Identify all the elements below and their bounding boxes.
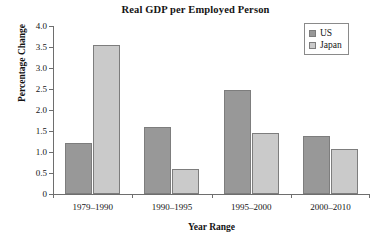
bar-group — [53, 26, 132, 194]
x-tick-label: 1979–1990 — [53, 202, 132, 212]
bar-group — [132, 26, 211, 194]
legend-item-japan[interactable]: Japan — [309, 39, 342, 51]
x-tick-mark — [291, 194, 292, 198]
x-tick-label: 1995–2000 — [212, 202, 291, 212]
bar-japan-1[interactable] — [172, 169, 199, 194]
legend-swatch-icon — [309, 42, 316, 49]
x-tick-label: 2000–2010 — [291, 202, 370, 212]
y-tick-label: 4.0 — [36, 21, 47, 31]
bar-group — [212, 26, 291, 194]
bar-japan-2[interactable] — [252, 133, 279, 194]
y-axis-title: Percentage Change — [17, 0, 27, 133]
y-tick-label: 0 — [43, 189, 48, 199]
legend-swatch-icon — [309, 30, 316, 37]
bar-japan-3[interactable] — [331, 149, 358, 194]
bar-us-3[interactable] — [303, 136, 330, 194]
y-tick-label: 1.0 — [36, 147, 47, 157]
chart-figure: Real GDP per Employed Person Percentage … — [0, 0, 391, 248]
legend-label: US — [320, 27, 332, 39]
y-tick-label: 3.0 — [36, 63, 47, 73]
chart-title: Real GDP per Employed Person — [0, 4, 391, 15]
y-tick-label: 2.0 — [36, 105, 47, 115]
legend-label: Japan — [320, 39, 342, 51]
x-tick-mark — [53, 194, 54, 198]
bar-us-1[interactable] — [144, 127, 171, 194]
bar-us-0[interactable] — [65, 143, 92, 194]
y-tick-label: 3.5 — [36, 42, 47, 52]
x-axis-title: Year Range — [53, 222, 370, 232]
x-tick-mark — [212, 194, 213, 198]
bar-us-2[interactable] — [224, 90, 251, 194]
x-tick-mark — [369, 194, 370, 198]
legend-item-us[interactable]: US — [309, 27, 342, 39]
bar-japan-0[interactable] — [93, 45, 120, 194]
y-tick-label: 0.5 — [36, 168, 47, 178]
x-tick-mark — [132, 194, 133, 198]
y-tick-label: 2.5 — [36, 84, 47, 94]
y-tick-label: 1.5 — [36, 126, 47, 136]
legend: USJapan — [304, 23, 349, 55]
x-tick-label: 1990–1995 — [132, 202, 211, 212]
